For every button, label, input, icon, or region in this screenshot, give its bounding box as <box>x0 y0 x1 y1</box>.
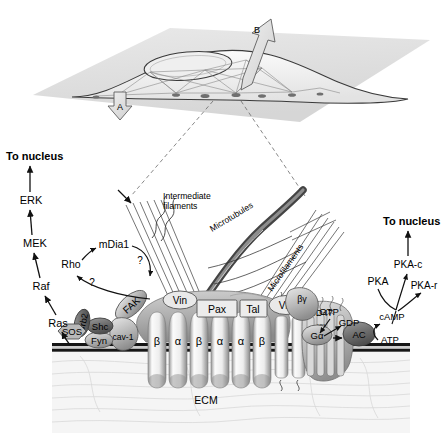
left-to-nucleus-label: To nucleus <box>6 150 63 162</box>
camp-label: cAMP <box>379 311 404 322</box>
ras-label: Ras <box>48 317 68 329</box>
atp-label: ATP <box>381 334 399 345</box>
arrow-raf-to-mek <box>34 253 40 278</box>
gdp-label: GDP <box>339 317 360 328</box>
right-to-nucleus-label: To nucleus <box>383 215 440 227</box>
pka-r-label: PKA-r <box>411 280 438 291</box>
shc-label: Shc <box>92 321 109 332</box>
mek-label: MEK <box>23 237 48 249</box>
vinculin-left-label: Vin <box>173 295 187 306</box>
ecm-label: ECM <box>194 394 217 406</box>
arrow-junction-to-pkac <box>396 274 407 310</box>
figure-canvas: A B ECM <box>0 0 444 433</box>
diagram-svg: A B ECM <box>0 0 444 433</box>
caveolin1-label: cav-1 <box>112 332 133 342</box>
integrin-subunit-1: α <box>175 335 182 347</box>
erk-label: ERK <box>20 194 43 206</box>
arrow-junction-to-pkar <box>398 293 421 311</box>
arrow-ras-to-raf <box>45 296 56 315</box>
integrin-subunit-4: α <box>238 335 245 347</box>
integrin-subunit-5: β <box>259 335 265 347</box>
intermediate-filaments-label-line1: Intermediate <box>163 191 211 201</box>
paxillin-label: Pax <box>208 303 227 315</box>
rho-label: Rho <box>61 258 80 270</box>
raf-label: Raf <box>32 280 50 292</box>
arrow-mek-to-erk <box>30 210 32 235</box>
gtp-label: GTP <box>319 306 339 317</box>
left-fiber-bundle <box>126 200 201 300</box>
integrin-subunit-0: β <box>154 335 160 347</box>
arrow-a-label: A <box>117 102 123 112</box>
talin-label: Tal <box>246 303 259 315</box>
ecm-region <box>52 352 410 433</box>
microtubules-label: Microtubules <box>208 200 255 234</box>
arrow-into-fiber-bundle <box>118 190 131 203</box>
integrin-subunit-3: α <box>217 335 224 347</box>
arrow-rho-to-mdia1 <box>82 248 96 260</box>
intermediate-filaments-label-line2: filaments <box>163 201 197 211</box>
fyn-label: Fyn <box>91 335 107 346</box>
microfilaments-label: Microfilaments <box>265 242 305 293</box>
question-mark-mdia1: ? <box>137 255 143 266</box>
pka-c-label: PKA-c <box>394 259 422 270</box>
arrow-b-label: B <box>254 25 260 35</box>
integrin-subunit-2: β <box>196 335 202 347</box>
g-beta-gamma-label: βγ <box>297 294 307 304</box>
question-mark-rho: ? <box>89 277 95 288</box>
mdia1-label: mDia1 <box>99 238 130 250</box>
adenylyl-cyclase-label: AC <box>352 329 365 340</box>
line-pka-to-junction <box>378 289 396 310</box>
right-signaling-cascade: To nucleus PKA-c PKA PKA-r <box>367 215 440 324</box>
cell-overview-illustration: A B <box>33 19 430 122</box>
g-alpha-label: Gα <box>311 330 324 341</box>
pka-label: PKA <box>367 275 388 287</box>
